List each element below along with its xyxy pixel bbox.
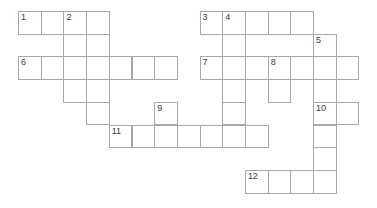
clue-number-3: 3 [203,12,208,23]
cell-r2c1[interactable] [41,56,65,80]
cell-r3c2[interactable] [63,79,87,103]
cell-r0c10[interactable] [245,11,269,35]
cell-r3c9[interactable] [222,79,246,103]
cell-r2c13[interactable] [313,56,337,80]
cell-r7c12[interactable] [290,170,314,194]
clue-number-10: 10 [316,103,326,114]
cell-r0c11[interactable] [268,11,292,35]
cell-r0c8[interactable]: 3 [200,11,224,35]
clue-number-12: 12 [248,171,258,182]
cell-r1c3[interactable] [86,34,110,58]
cell-r2c4[interactable] [109,56,133,80]
cell-r5c9[interactable] [222,125,246,149]
cell-r2c2[interactable] [63,56,87,80]
cell-r5c7[interactable] [177,125,201,149]
cell-r4c9[interactable] [222,102,246,126]
clue-number-5: 5 [316,35,321,46]
clue-number-1: 1 [21,12,26,23]
cell-r5c4[interactable]: 11 [109,125,133,149]
cell-r5c10[interactable] [245,125,269,149]
cell-r0c12[interactable] [290,11,314,35]
cell-r5c6[interactable] [154,125,178,149]
cell-r7c11[interactable] [268,170,292,194]
cell-r0c1[interactable] [41,11,65,35]
clue-number-9: 9 [157,103,162,114]
cell-r4c3[interactable] [86,102,110,126]
clue-number-7: 7 [203,57,208,68]
cell-r0c0[interactable]: 1 [18,11,42,35]
cell-r5c5[interactable] [132,125,156,149]
cell-r2c12[interactable] [290,56,314,80]
cell-r2c14[interactable] [336,56,360,80]
cell-r2c10[interactable] [245,56,269,80]
cell-r3c13[interactable] [313,79,337,103]
cell-r2c3[interactable] [86,56,110,80]
cell-r7c10[interactable]: 12 [245,170,269,194]
cell-r3c11[interactable] [268,79,292,103]
cell-r2c11[interactable]: 8 [268,56,292,80]
cell-r2c8[interactable]: 7 [200,56,224,80]
cell-r6c13[interactable] [313,147,337,171]
cell-r2c5[interactable] [132,56,156,80]
clue-number-8: 8 [271,57,276,68]
cell-r1c9[interactable] [222,34,246,58]
cell-r2c6[interactable] [154,56,178,80]
clue-number-2: 2 [66,12,71,23]
cell-r5c13[interactable] [313,125,337,149]
clue-number-4: 4 [225,12,230,23]
cell-r1c2[interactable] [63,34,87,58]
cell-r4c13[interactable]: 10 [313,102,337,126]
cell-r3c3[interactable] [86,79,110,103]
clue-number-11: 11 [112,126,121,137]
cell-r2c9[interactable] [222,56,246,80]
cell-r0c9[interactable]: 4 [222,11,246,35]
cell-r4c6[interactable]: 9 [154,102,178,126]
cell-r1c13[interactable]: 5 [313,34,337,58]
clue-number-6: 6 [21,57,26,68]
cell-r0c3[interactable] [86,11,110,35]
crossword-grid: 126345781091112 [0,0,377,208]
cell-r5c8[interactable] [200,125,224,149]
cell-r0c2[interactable]: 2 [63,11,87,35]
cell-r7c13[interactable] [313,170,337,194]
cell-r4c14[interactable] [336,102,360,126]
cell-r2c0[interactable]: 6 [18,56,42,80]
